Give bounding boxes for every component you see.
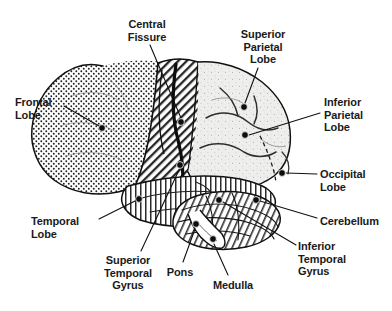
brain-diagram-figure: CentralFissureSuperiorParietalLobeFronta… xyxy=(0,0,392,311)
label-pons: Pons xyxy=(167,266,194,279)
label-line: Pons xyxy=(167,266,194,279)
label-line: Cerebellum xyxy=(320,215,379,228)
label-medulla: Medulla xyxy=(213,279,253,292)
label-line: Lobe xyxy=(324,121,363,134)
label-line: Superior xyxy=(241,28,285,41)
label-line: Lobe xyxy=(31,228,79,241)
label-line: Inferior xyxy=(298,240,346,253)
label-line: Lobe xyxy=(320,181,366,194)
marker-dot-superior-temporal-gyrus xyxy=(177,162,184,169)
label-line: Frontal xyxy=(15,96,52,109)
label-line: Gyrus xyxy=(298,265,346,278)
label-line: Occipital xyxy=(320,168,366,181)
label-line: Fissure xyxy=(128,31,166,44)
label-line: Temporal xyxy=(104,267,152,280)
label-line: Superior xyxy=(104,254,152,267)
label-line: Lobe xyxy=(241,53,285,66)
marker-dot-frontal-lobe xyxy=(99,125,106,132)
marker-dot-medulla xyxy=(210,236,217,243)
marker-dot-pons xyxy=(193,221,200,228)
label-line: Inferior xyxy=(324,96,363,109)
label-superior-temporal-gyrus: SuperiorTemporalGyrus xyxy=(104,254,152,292)
label-inferior-temporal-gyrus: InferiorTemporalGyrus xyxy=(298,240,346,278)
label-line: Temporal xyxy=(31,215,79,228)
label-temporal-lobe: TemporalLobe xyxy=(31,215,79,240)
label-line: Parietal xyxy=(324,109,363,122)
label-line: Temporal xyxy=(298,253,346,266)
label-central-fissure: CentralFissure xyxy=(128,18,166,43)
label-line: Parietal xyxy=(241,41,285,54)
label-line: Central xyxy=(128,18,166,31)
label-cerebellum: Cerebellum xyxy=(320,215,379,228)
label-superior-parietal-lobe: SuperiorParietalLobe xyxy=(241,28,285,66)
marker-dot-cerebellum xyxy=(253,197,260,204)
label-occipital-lobe: OccipitalLobe xyxy=(320,168,366,193)
label-frontal-lobe: FrontalLobe xyxy=(15,96,52,121)
label-line: Gyrus xyxy=(104,279,152,292)
marker-dot-inferior-parietal-lobe xyxy=(242,132,249,139)
label-line: Lobe xyxy=(15,109,52,122)
leader-line-occipital-lobe xyxy=(286,173,317,174)
marker-dot-superior-parietal-lobe xyxy=(241,104,248,111)
marker-dot-occipital-lobe xyxy=(279,170,286,177)
label-line: Medulla xyxy=(213,279,253,292)
marker-dot-inferior-temporal-gyrus xyxy=(216,197,223,204)
marker-dot-central-fissure xyxy=(178,119,185,126)
marker-dot-temporal-lobe xyxy=(136,196,143,203)
label-inferior-parietal-lobe: InferiorParietalLobe xyxy=(324,96,363,134)
